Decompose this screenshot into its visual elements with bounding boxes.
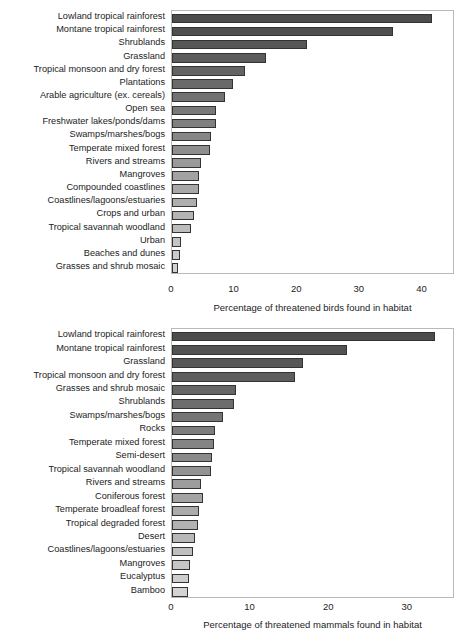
category-label: Tropical monsoon and dry forest <box>34 65 165 74</box>
bar-row <box>172 92 453 102</box>
x-tick-label: 0 <box>168 283 173 294</box>
x-tick-label: 10 <box>228 283 239 294</box>
bar-row <box>172 533 453 543</box>
x-axis-title-mammals: Percentage of threatened mammals found i… <box>171 619 454 630</box>
category-label: Arable agriculture (ex. cereals) <box>40 91 165 100</box>
bar <box>172 426 215 436</box>
category-label: Montane tropical rainforest <box>56 344 165 353</box>
bar-row <box>172 399 453 409</box>
x-tick-label: 20 <box>323 601 334 612</box>
bar <box>172 92 225 102</box>
category-label: Grasses and shrub mosaic <box>56 262 165 271</box>
bar <box>172 14 432 24</box>
bar-row <box>172 66 453 76</box>
bar-row <box>172 358 453 368</box>
bar-row <box>172 184 453 194</box>
bar <box>172 158 201 168</box>
bar <box>172 547 193 557</box>
category-label: Shrublands <box>119 38 165 47</box>
bar <box>172 560 190 570</box>
bar <box>172 184 199 194</box>
bar-row <box>172 14 453 24</box>
bar-row <box>172 171 453 181</box>
category-label: Grasses and shrub mosaic <box>56 384 165 393</box>
category-label: Rocks <box>139 424 165 433</box>
figure-threatened-species-habitats: Lowland tropical rainforestMontane tropi… <box>0 0 468 633</box>
bar-row <box>172 332 453 342</box>
bar-row <box>172 372 453 382</box>
bar-row <box>172 250 453 260</box>
bar-row <box>172 198 453 208</box>
category-label: Freshwater lakes/ponds/dams <box>42 117 165 126</box>
bar-row <box>172 547 453 557</box>
bar-row <box>172 439 453 449</box>
category-label: Shrublands <box>119 397 165 406</box>
category-label: Coastlines/lagoons/estuaries <box>48 545 165 554</box>
category-label: Plantations <box>120 78 165 87</box>
bar-row <box>172 493 453 503</box>
bar <box>172 587 188 597</box>
category-label: Tropical savannah woodland <box>48 223 165 232</box>
bar <box>172 439 214 449</box>
category-label: Rivers and streams <box>86 157 165 166</box>
bar <box>172 453 212 463</box>
category-label: Desert <box>138 532 165 541</box>
bar-row <box>172 345 453 355</box>
bar <box>172 119 216 129</box>
bar <box>172 263 178 273</box>
bar-row <box>172 587 453 597</box>
bar <box>172 332 435 342</box>
bar-row <box>172 574 453 584</box>
category-label: Grassland <box>123 52 165 61</box>
bar-row <box>172 106 453 116</box>
category-label: Tropical monsoon and dry forest <box>34 371 165 380</box>
category-label: Tropical degraded forest <box>66 519 165 528</box>
bar-row <box>172 453 453 463</box>
bar-row <box>172 237 453 247</box>
category-label: Open sea <box>125 104 165 113</box>
bar-series-mammals <box>172 329 453 597</box>
category-label: Lowland tropical rainforest <box>58 330 165 339</box>
bar <box>172 358 303 368</box>
bar <box>172 479 201 489</box>
category-label: Rivers and streams <box>86 478 165 487</box>
category-label: Urban <box>140 236 165 245</box>
bar-row <box>172 158 453 168</box>
bar <box>172 345 347 355</box>
bar-row <box>172 27 453 37</box>
category-label: Eucalyptus <box>120 572 165 581</box>
bar <box>172 27 393 37</box>
bar-row <box>172 40 453 50</box>
bar <box>172 237 181 247</box>
category-label: Tropical savannah woodland <box>48 465 165 474</box>
bar <box>172 506 199 516</box>
bar-row <box>172 426 453 436</box>
category-label: Grassland <box>123 357 165 366</box>
bar-row <box>172 132 453 142</box>
bar-row <box>172 145 453 155</box>
bar <box>172 132 211 142</box>
plot-area-birds <box>171 10 454 274</box>
bar-row <box>172 506 453 516</box>
category-label: Mangroves <box>120 559 165 568</box>
x-tick-label: 10 <box>244 601 255 612</box>
bar <box>172 385 236 395</box>
category-label: Bamboo <box>131 586 165 595</box>
plot-area-mammals <box>171 328 454 598</box>
bar <box>172 211 194 221</box>
bar <box>172 250 180 260</box>
category-label: Coniferous forest <box>95 492 165 501</box>
bar <box>172 399 234 409</box>
bar <box>172 198 197 208</box>
category-label: Beaches and dunes <box>84 249 165 258</box>
bar-row <box>172 119 453 129</box>
category-label: Swamps/marshes/bogs <box>70 411 166 420</box>
bar-row <box>172 224 453 234</box>
x-tick-label: 30 <box>354 283 365 294</box>
category-label: Coastlines/lagoons/estuaries <box>48 196 165 205</box>
x-tick-label: 30 <box>402 601 413 612</box>
category-label: Mangroves <box>120 170 165 179</box>
x-tick-label: 0 <box>168 601 173 612</box>
category-label: Swamps/marshes/bogs <box>70 130 166 139</box>
bar <box>172 574 189 584</box>
